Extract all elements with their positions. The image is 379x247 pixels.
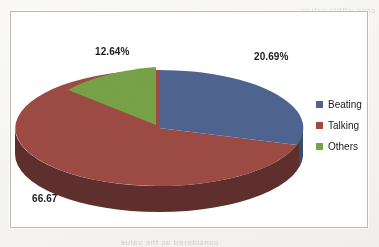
legend-label-beating: Beating xyxy=(328,100,362,110)
data-label-others: 12.64% xyxy=(95,46,130,57)
chart-frame: 12.64% 20.69% 66.67 Beating Talking Othe… xyxy=(10,11,368,228)
legend-swatch-beating xyxy=(316,101,323,108)
legend-item-others[interactable]: Others xyxy=(316,136,368,157)
chart-legend: Beating Talking Others xyxy=(316,94,368,157)
bleed-through-text: considered as the value xyxy=(120,238,218,247)
legend-swatch-talking xyxy=(316,122,323,129)
legend-swatch-others xyxy=(316,143,323,150)
data-label-beating: 20.69% xyxy=(254,51,289,62)
plot-area: 12.64% 20.69% 66.67 Beating Talking Othe… xyxy=(11,12,367,227)
data-label-talking: 66.67 xyxy=(32,193,58,204)
legend-label-talking: Talking xyxy=(328,121,359,131)
pie-scan-texture xyxy=(13,68,305,200)
legend-item-talking[interactable]: Talking xyxy=(316,115,368,136)
legend-label-others: Others xyxy=(328,142,358,152)
legend-item-beating[interactable]: Beating xyxy=(316,94,368,115)
